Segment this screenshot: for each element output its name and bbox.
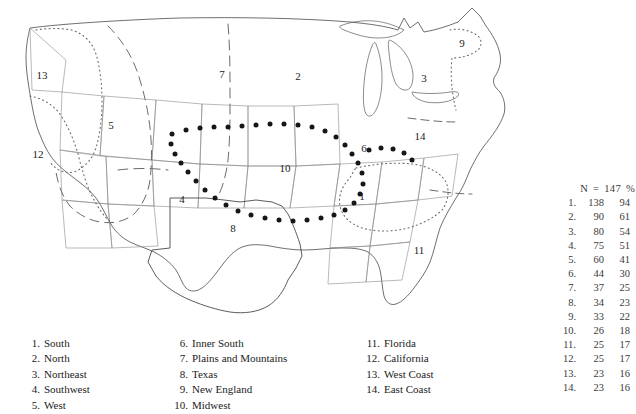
stats-rank: 8.	[548, 296, 576, 310]
legend-item-label: Texas	[192, 367, 218, 382]
legend-column-2: 6.Inner South7.Plains and Mountains8.Tex…	[168, 336, 287, 413]
region-label-13: 13	[37, 69, 49, 81]
stats-percent: 51	[604, 239, 630, 253]
region-label-6: 6	[361, 142, 367, 154]
legend-item-number: 5.	[20, 398, 40, 413]
stats-row: 4.7551	[548, 239, 636, 253]
stats-percent: 30	[604, 267, 630, 281]
stats-row: 1.13894	[548, 196, 636, 210]
legend-item-label: Florida	[384, 336, 416, 351]
stats-row: 11.2517	[548, 338, 636, 352]
legend-item-label: Southwest	[44, 382, 90, 397]
stats-rank: 9.	[548, 310, 576, 324]
stats-row: 3.8054	[548, 225, 636, 239]
legend-item: 5.West	[20, 398, 90, 413]
region-legend: 1.South2.North3.Northeast4.Southwest5.We…	[0, 336, 540, 414]
stats-rank: 10.	[548, 324, 576, 338]
stats-rows-container: 1.138942.90613.80544.75515.60416.44307.3…	[548, 196, 636, 395]
region-7-plains-mountains-boundary	[216, 24, 230, 200]
legend-item: 6.Inner South	[168, 336, 287, 351]
stats-count: 80	[576, 225, 604, 239]
stats-percent: 17	[604, 352, 630, 366]
region-label-4: 4	[179, 193, 185, 205]
legend-item-number: 7.	[168, 351, 188, 366]
stats-rank: 14.	[548, 381, 576, 395]
stats-n-label: N	[580, 182, 588, 196]
stats-count: 44	[576, 267, 604, 281]
stats-equals-sign: =	[593, 182, 599, 196]
region-label-14: 14	[415, 130, 427, 142]
stats-row: 8.3423	[548, 296, 636, 310]
stats-percent: 17	[604, 338, 630, 352]
stats-row: 13.2316	[548, 367, 636, 381]
us-regions-map: 1 2 3 4 5 6 7 8 9 10 11 12 13 14	[0, 0, 540, 320]
stats-count: 23	[576, 367, 604, 381]
stats-count: 25	[576, 338, 604, 352]
legend-item: 3.Northeast	[20, 367, 90, 382]
stats-rank: 5.	[548, 253, 576, 267]
legend-item-label: West	[44, 398, 66, 413]
stats-percent: 16	[604, 367, 630, 381]
legend-item: 4.Southwest	[20, 382, 90, 397]
region-label-1: 1	[359, 190, 365, 202]
legend-item: 14.East Coast	[360, 382, 434, 397]
legend-item-number: 12.	[360, 351, 380, 366]
stats-count: 75	[576, 239, 604, 253]
stats-percent: 61	[604, 210, 630, 224]
legend-item-number: 13.	[360, 367, 380, 382]
stats-percent: 41	[604, 253, 630, 267]
stats-count: 60	[576, 253, 604, 267]
legend-item-number: 8.	[168, 367, 188, 382]
legend-item-number: 10.	[168, 398, 188, 413]
legend-column-3: 11.Florida12.California13.West Coast14.E…	[360, 336, 434, 398]
statistics-table: N = 147 % 1.138942.90613.80544.75515.604…	[548, 182, 636, 395]
stats-percent-label: %	[626, 182, 635, 196]
legend-item-label: New England	[192, 382, 252, 397]
stats-percent: 94	[604, 196, 630, 210]
legend-item-number: 1.	[20, 336, 40, 351]
legend-item: 11.Florida	[360, 336, 434, 351]
legend-item-label: California	[384, 351, 429, 366]
us-national-outline	[26, 8, 505, 305]
legend-item-label: Inner South	[192, 336, 244, 351]
stats-percent: 54	[604, 225, 630, 239]
lake-huron-erie	[388, 40, 413, 90]
lake-erie-ontario	[412, 92, 459, 103]
legend-item-number: 2.	[20, 351, 40, 366]
legend-item: 1.South	[20, 336, 90, 351]
stats-rank: 7.	[548, 281, 576, 295]
interior-boundaries	[30, 28, 458, 284]
legend-item: 8.Texas	[168, 367, 287, 382]
texas-outline	[148, 198, 302, 313]
region-label-8: 8	[230, 222, 236, 234]
stats-count: 23	[576, 381, 604, 395]
stats-percent: 22	[604, 310, 630, 324]
stats-table-header: N = 147 %	[548, 182, 636, 196]
stats-rank: 4.	[548, 239, 576, 253]
stats-row: 7.3725	[548, 281, 636, 295]
stats-percent: 25	[604, 281, 630, 295]
region-7-south-dash	[118, 169, 168, 171]
stats-row: 14.2316	[548, 381, 636, 395]
region-9-new-england-boundary	[450, 29, 481, 110]
stats-rank: 6.	[548, 267, 576, 281]
legend-item-label: Midwest	[192, 398, 231, 413]
stats-row: 2.9061	[548, 210, 636, 224]
legend-item-label: West Coast	[384, 367, 434, 382]
stats-count: 90	[576, 210, 604, 224]
legend-item-label: Northeast	[44, 367, 87, 382]
region-3-northeast-boundary	[408, 118, 456, 122]
legend-item-label: South	[44, 336, 70, 351]
stats-rank: 11.	[548, 338, 576, 352]
stats-count: 25	[576, 352, 604, 366]
legend-column-1: 1.South2.North3.Northeast4.Southwest5.We…	[20, 336, 90, 413]
legend-item-label: North	[44, 351, 70, 366]
legend-item-number: 14.	[360, 382, 380, 397]
legend-item-number: 11.	[360, 336, 380, 351]
legend-item: 9.New England	[168, 382, 287, 397]
legend-item-number: 3.	[20, 367, 40, 382]
legend-item: 12.California	[360, 351, 434, 366]
legend-item: 10.Midwest	[168, 398, 287, 413]
legend-item: 13.West Coast	[360, 367, 434, 382]
stats-rank: 13.	[548, 367, 576, 381]
